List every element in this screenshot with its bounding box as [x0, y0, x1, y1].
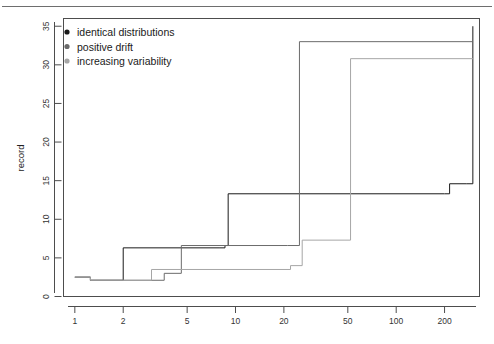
y-tick-label: 30: [41, 60, 51, 70]
legend-label-2: increasing variability: [77, 55, 172, 67]
y-axis-ticks: 05101520253035: [41, 21, 62, 299]
x-tick-label: 2: [121, 316, 126, 326]
x-tick-label: 1: [72, 316, 77, 326]
legend-marker-1: [64, 44, 69, 49]
x-tick-label: 50: [343, 316, 353, 326]
x-tick-label: 200: [437, 316, 451, 326]
chart-figure: 05101520253035 125102050100200 record id…: [0, 0, 494, 344]
y-tick-label: 0: [41, 294, 51, 299]
y-tick-label: 5: [41, 255, 51, 260]
y-axis-title: record: [15, 145, 26, 172]
legend-marker-0: [64, 29, 69, 34]
legend-marker-2: [64, 58, 69, 63]
x-tick-label: 5: [185, 316, 190, 326]
record-values-line-chart: 05101520253035 125102050100200 record id…: [0, 0, 494, 344]
y-tick-label: 15: [41, 176, 51, 186]
x-tick-label: 100: [389, 316, 403, 326]
series-line-1: [75, 42, 473, 281]
chart-legend: identical distributionspositive driftinc…: [64, 26, 174, 67]
x-tick-label: 10: [231, 316, 241, 326]
y-tick-label: 20: [41, 137, 51, 147]
y-tick-label: 25: [41, 98, 51, 108]
series-line-2: [75, 59, 473, 281]
y-tick-label: 10: [41, 214, 51, 224]
legend-label-0: identical distributions: [77, 26, 174, 38]
legend-label-1: positive drift: [77, 41, 133, 53]
y-tick-label: 35: [41, 21, 51, 31]
x-tick-label: 20: [279, 316, 289, 326]
x-axis-ticks: 125102050100200: [72, 307, 451, 327]
